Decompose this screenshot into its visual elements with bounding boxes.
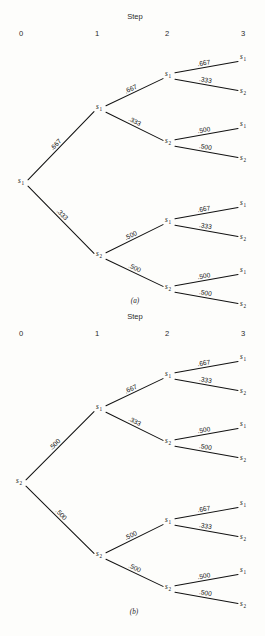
state-subscript: 2 (243, 390, 246, 396)
panel-a-column-label-0: 0 (19, 29, 23, 38)
state-subscript: 1 (168, 373, 171, 379)
state-subscript: 2 (243, 536, 246, 542)
state-subscript: 2 (168, 140, 171, 146)
state-subscript: 1 (168, 219, 171, 225)
state-subscript: 1 (243, 123, 246, 129)
panel-b-step-header: Step (127, 312, 143, 321)
state-subscript: 2 (243, 236, 246, 242)
state-subscript: 1 (243, 502, 246, 508)
panel-b-caption: (b) (130, 608, 139, 616)
state-subscript: 1 (243, 202, 246, 208)
state-subscript: 2 (99, 253, 102, 259)
state-transition-tree-figure: Step0123.667.333.667.333.500.500.667.333… (0, 0, 265, 636)
state-subscript: 2 (168, 586, 171, 592)
state-subscript: 1 (99, 406, 102, 412)
state-subscript: 2 (243, 457, 246, 463)
panel-a-column-label-3: 3 (241, 29, 245, 38)
state-subscript: 2 (243, 603, 246, 609)
state-subscript: 1 (21, 180, 24, 186)
state-subscript: 2 (19, 480, 22, 486)
state-subscript: 1 (168, 73, 171, 79)
panel-a-column-label-1: 1 (95, 29, 99, 38)
panel-b-column-label-2: 2 (165, 329, 169, 338)
panel-a-column-label-2: 2 (165, 29, 169, 38)
state-subscript: 2 (243, 90, 246, 96)
panel-b-column-label-0: 0 (19, 329, 23, 338)
state-subscript: 1 (99, 106, 102, 112)
panel-b-column-label-3: 3 (241, 329, 245, 338)
panel-a-step-header: Step (127, 12, 143, 21)
state-subscript: 1 (243, 356, 246, 362)
panel-a-caption: (a) (131, 297, 140, 305)
state-subscript: 1 (243, 56, 246, 62)
panel-b-column-label-1: 1 (95, 329, 99, 338)
state-subscript: 1 (243, 269, 246, 275)
state-subscript: 2 (168, 440, 171, 446)
state-subscript: 2 (168, 286, 171, 292)
state-subscript: 2 (243, 157, 246, 163)
state-subscript: 1 (243, 423, 246, 429)
state-subscript: 2 (99, 553, 102, 559)
state-subscript: 1 (168, 519, 171, 525)
state-subscript: 2 (243, 303, 246, 309)
state-subscript: 1 (243, 569, 246, 575)
